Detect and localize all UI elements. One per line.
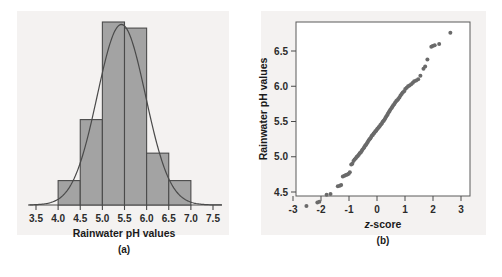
x-axis-ticks: 3.54.04.55.05.56.06.57.07.5 xyxy=(29,205,220,224)
panel-b-x-axis-label: z-score xyxy=(364,218,402,230)
scatter-point xyxy=(304,204,308,208)
x-tick-label: 7.5 xyxy=(206,213,220,224)
scatter-point xyxy=(448,31,452,35)
scatter-point xyxy=(425,57,429,61)
scatter-point xyxy=(433,43,437,47)
histogram-bar xyxy=(147,153,169,205)
plot-frame xyxy=(296,22,470,196)
x-axis-ticks: -3-2-10123 xyxy=(289,196,465,215)
x-tick-label: 4.5 xyxy=(73,213,87,224)
x-tick-label: -1 xyxy=(345,204,354,215)
histogram-bar xyxy=(102,22,124,205)
figure-container: 3.54.04.55.05.56.06.57.07.5Rainwater pH … xyxy=(0,0,502,277)
panel-b-svg: 4.55.05.56.06.5-3-2-10123z-score(b)Rainw… xyxy=(251,0,502,277)
y-tick-label: 4.5 xyxy=(274,187,288,198)
scatter-point xyxy=(317,200,321,204)
x-tick-label: 5.5 xyxy=(118,213,132,224)
histogram-bar xyxy=(58,181,80,205)
panel-a-x-axis-label: Rainwater pH values xyxy=(73,227,176,239)
scatter-point xyxy=(339,183,343,187)
y-tick-label: 6.0 xyxy=(274,81,288,92)
x-tick-label: 5.0 xyxy=(95,213,109,224)
x-tick-label: 4.0 xyxy=(51,213,65,224)
scatter-point xyxy=(423,65,427,69)
scatter-point xyxy=(418,74,422,78)
scatter-point xyxy=(348,170,352,174)
panel-a-caption: (a) xyxy=(118,244,130,255)
x-tick-label: 0 xyxy=(374,204,380,215)
x-tick-label: 3.5 xyxy=(29,213,43,224)
panel-b-y-axis-label: Rainwater pH values xyxy=(257,57,269,160)
scatter-point xyxy=(329,192,333,196)
y-tick-label: 5.0 xyxy=(274,151,288,162)
x-tick-label: 1 xyxy=(402,204,408,215)
score-text: -score xyxy=(370,218,402,230)
panel-b-caption: (b) xyxy=(377,235,390,246)
panel-b-qqplot: 4.55.05.56.06.5-3-2-10123z-score(b)Rainw… xyxy=(251,0,502,277)
histogram-bar xyxy=(80,120,102,205)
x-tick-label: 6.5 xyxy=(162,213,176,224)
y-axis-ticks: 4.55.05.56.06.5 xyxy=(274,46,296,198)
x-tick-label: 6.0 xyxy=(140,213,154,224)
y-tick-label: 6.5 xyxy=(274,46,288,57)
panel-a-svg: 3.54.04.55.05.56.06.57.07.5Rainwater pH … xyxy=(0,0,251,277)
x-tick-label: 3 xyxy=(458,204,464,215)
x-tick-label: -3 xyxy=(289,204,298,215)
panel-a-histogram: 3.54.04.55.05.56.06.57.07.5Rainwater pH … xyxy=(0,0,251,277)
x-tick-label: 7.0 xyxy=(184,213,198,224)
y-tick-label: 5.5 xyxy=(274,116,288,127)
scatter-point xyxy=(416,77,420,81)
scatter-point xyxy=(437,42,441,46)
x-tick-label: 2 xyxy=(430,204,436,215)
scatter-point xyxy=(325,193,329,197)
histogram-bars xyxy=(58,22,191,205)
x-tick-label: -2 xyxy=(317,204,326,215)
